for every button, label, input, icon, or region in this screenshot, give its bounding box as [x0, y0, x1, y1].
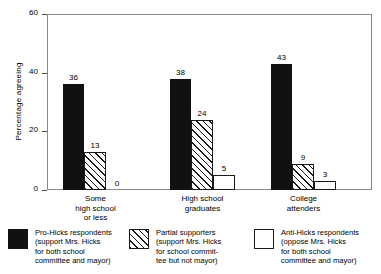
- legend-label-anti-hicks: Anti-Hicks respondents (oppose Mrs. Hick…: [281, 228, 359, 266]
- y-tick-label-40: 40: [29, 67, 38, 76]
- legend-swatch-open-icon: [254, 229, 274, 249]
- chart-legend: Pro-Hicks respondents (support Mrs. Hick…: [0, 228, 381, 274]
- x-axis-labels: Some high school or less High school gra…: [47, 194, 372, 228]
- bar-value-group2-partial: 24: [198, 110, 207, 118]
- bar-group2-anti-hicks: 5: [213, 175, 235, 190]
- bar-value-group2-pro-hicks: 38: [176, 69, 185, 77]
- bar-value-group1-anti-hicks: 0: [115, 180, 119, 188]
- bar-group3-pro-hicks: 43: [271, 64, 292, 190]
- bar-group2-pro-hicks: 38: [170, 79, 191, 191]
- y-tick-mark-0: [42, 190, 47, 191]
- bars-layer: 36 13 0 38 24 5 43 9 3: [47, 14, 372, 190]
- legend-item-pro-hicks: Pro-Hicks respondents (support Mrs. Hick…: [8, 228, 126, 266]
- x-category-1: Some high school or less: [47, 194, 144, 223]
- bar-group2-partial: 24: [191, 120, 213, 190]
- bar-value-group1-partial: 13: [91, 142, 100, 150]
- bar-group3-anti-hicks: 3: [314, 181, 336, 190]
- legend-label-partial: Partial supporters (support Mrs. Hicks f…: [156, 228, 221, 266]
- bar-chart: Percentage agreeing 60 40 20 0 36 13 0 3…: [0, 0, 381, 274]
- bar-group1-partial: 13: [84, 152, 106, 190]
- legend-item-anti-hicks: Anti-Hicks respondents (oppose Mrs. Hick…: [254, 228, 379, 266]
- y-tick-label-60: 60: [29, 8, 38, 17]
- legend-item-partial: Partial supporters (support Mrs. Hicks f…: [129, 228, 249, 266]
- bar-value-group2-anti-hicks: 5: [222, 165, 226, 173]
- legend-swatch-hatch-icon: [129, 229, 149, 249]
- y-tick-label-0: 0: [34, 184, 38, 193]
- bar-value-group3-partial: 9: [301, 154, 305, 162]
- bar-value-group3-pro-hicks: 43: [277, 54, 286, 62]
- y-tick-label-20: 20: [29, 125, 38, 134]
- bar-value-group1-pro-hicks: 36: [69, 74, 78, 82]
- x-category-3: College attenders: [255, 194, 352, 213]
- y-axis-title: Percentage agreeing: [14, 32, 23, 172]
- legend-label-pro-hicks: Pro-Hicks respondents (support Mrs. Hick…: [35, 228, 112, 266]
- x-category-2: High school graduates: [154, 194, 251, 213]
- bar-group3-partial: 9: [292, 164, 314, 190]
- bar-group1-pro-hicks: 36: [63, 84, 84, 190]
- bar-value-group3-anti-hicks: 3: [323, 171, 327, 179]
- legend-swatch-solid-icon: [8, 229, 28, 249]
